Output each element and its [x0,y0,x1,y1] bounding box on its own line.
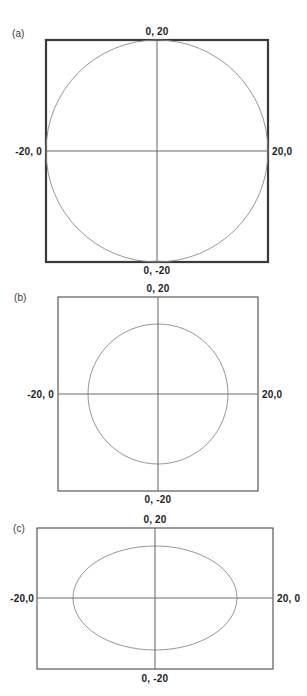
panel-a-plot [0,0,307,280]
figure-coordinate-diagrams: (a) 0, 20 0, -20 -20, 0 20,0 (b) 0, 20 0… [0,0,307,696]
panel-c-label-left: -20,0 [10,593,34,604]
panel-a-label-top: 0, 20 [145,26,168,37]
panel-c: (c) 0, 20 0, -20 -20,0 20, 0 [0,505,307,696]
panel-b-label-left: -20, 0 [27,389,54,400]
panel-c-label-bottom: 0, -20 [142,673,169,684]
panel-b: (b) 0, 20 0, -20 -20, 0 20,0 [0,280,307,505]
panel-c-plot [0,505,307,696]
panel-a-label-left: -20, 0 [15,146,42,157]
panel-c-label-top: 0, 20 [143,514,166,525]
panel-b-label-top: 0, 20 [146,283,169,294]
panel-b-label-right: 20,0 [262,389,282,400]
panel-b-label-bottom: 0, -20 [145,494,172,505]
panel-a: (a) 0, 20 0, -20 -20, 0 20,0 [0,0,307,280]
panel-c-label-right: 20, 0 [277,593,300,604]
panel-a-label-bottom: 0, -20 [144,265,171,276]
panel-a-label-right: 20,0 [272,146,292,157]
